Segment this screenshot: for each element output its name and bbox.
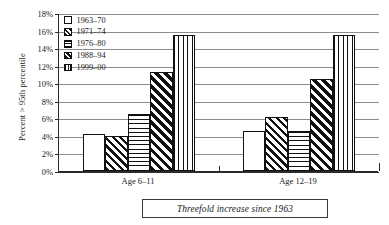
bar [265,117,288,171]
legend-swatch-icon [64,16,72,24]
y-tick-label: 6% [42,114,53,124]
x-axis-group-label: Age 12–19 [218,176,378,186]
legend-label: 1971–74 [77,27,106,36]
legend-item[interactable]: 1999–00 [64,62,106,72]
bar [105,136,128,171]
chart-figure: Percent > 95th percentile 0%2%4%6%8%10%1… [0,0,389,225]
x-axis-divider [379,163,380,171]
caption-text: Threefold increase since 1963 [177,204,293,214]
bar [128,114,151,171]
y-tick-mark [55,32,59,33]
y-tick-label: 4% [42,132,53,142]
bar [83,134,106,171]
gridline [59,49,379,50]
y-tick-label: 2% [42,149,53,159]
bar [310,79,333,171]
legend-label: 1963–70 [77,16,106,25]
legend-item[interactable]: 1971–74 [64,27,106,37]
gridline [59,32,379,33]
y-tick-label: 14% [37,44,53,54]
y-tick-mark [55,102,59,103]
bar [243,131,266,171]
legend-item[interactable]: 1963–70 [64,15,106,25]
chart-legend: 1963–701971–741976–801988–941999–00 [64,15,106,73]
legend-label: 1976–80 [77,39,106,48]
y-tick-label: 18% [37,9,53,19]
legend-swatch-icon [64,40,72,48]
legend-label: 1988–94 [77,51,106,60]
plot-area: 0%2%4%6%8%10%12%14%16%18% [58,14,378,172]
gridline [59,14,379,15]
y-tick-label: 0% [42,167,53,177]
x-axis-divider [219,166,220,171]
y-axis-title: Percent > 95th percentile [17,17,27,177]
bar [288,131,311,171]
y-tick-mark [55,172,59,173]
y-tick-label: 16% [37,27,53,37]
y-tick-label: 12% [37,62,53,72]
y-tick-mark [55,49,59,50]
y-tick-mark [55,14,59,15]
y-tick-label: 10% [37,79,53,89]
x-axis-group-label: Age 6–11 [58,176,218,186]
y-tick-mark [55,67,59,68]
legend-swatch-icon [64,64,72,72]
y-tick-mark [55,154,59,155]
gridline [59,67,379,68]
bar [150,72,173,171]
caption-box: Threefold increase since 1963 [142,199,328,218]
legend-label: 1999–00 [77,63,106,72]
bar [333,35,356,171]
legend-swatch-icon [64,28,72,36]
legend-item[interactable]: 1976–80 [64,39,106,49]
y-tick-mark [55,119,59,120]
gridline [59,172,379,173]
y-tick-mark [55,84,59,85]
y-tick-mark [55,137,59,138]
legend-swatch-icon [64,52,72,60]
legend-item[interactable]: 1988–94 [64,50,106,60]
y-tick-label: 8% [42,97,53,107]
bar [173,35,196,171]
